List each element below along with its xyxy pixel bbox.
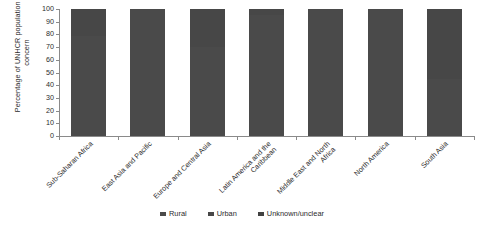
plot-area: 1009080706050403020100 — [59, 9, 474, 136]
y-tick-label: 40 — [28, 81, 59, 88]
legend-swatch-icon — [160, 212, 166, 216]
bar-segment[interactable] — [427, 79, 462, 136]
legend-swatch-icon — [258, 212, 264, 216]
y-tick-label: 20 — [28, 107, 59, 114]
y-tick-mark — [56, 34, 59, 35]
bar-slot — [237, 9, 296, 136]
legend-item[interactable]: Unknown/unclear — [258, 210, 324, 218]
bar-segment[interactable] — [71, 9, 106, 36]
x-tick-mark — [474, 136, 475, 140]
bar-segment[interactable] — [190, 9, 225, 47]
legend-item[interactable]: Rural — [160, 210, 187, 218]
stacked-bar[interactable] — [190, 9, 225, 136]
y-tick-mark — [56, 111, 59, 112]
stacked-bar[interactable] — [71, 9, 106, 136]
bar-segment[interactable] — [130, 9, 165, 136]
x-axis-label: Sub-Saharan Africa — [29, 140, 94, 205]
legend-label: Urban — [217, 210, 237, 218]
y-tick-label: 90 — [28, 18, 59, 25]
x-axis-label: Europe and Central Asia — [148, 140, 213, 205]
y-tick-label: 80 — [28, 30, 59, 37]
stacked-bar[interactable] — [249, 9, 284, 136]
stacked-bar[interactable] — [427, 9, 462, 136]
bar-segment[interactable] — [249, 15, 284, 136]
y-tick-mark — [56, 60, 59, 61]
chart-legend: RuralUrbanUnknown/unclear — [0, 210, 484, 218]
y-tick-mark — [56, 73, 59, 74]
y-tick-label: 10 — [28, 119, 59, 126]
stacked-bar[interactable] — [308, 9, 343, 136]
stacked-bar[interactable] — [368, 9, 403, 136]
bar-slot — [355, 9, 414, 136]
stacked-bar[interactable] — [130, 9, 165, 136]
y-tick-mark — [56, 47, 59, 48]
y-tick-label: 60 — [28, 56, 59, 63]
y-tick-mark — [56, 22, 59, 23]
bar-segment[interactable] — [308, 9, 343, 136]
bar-segment[interactable] — [368, 9, 403, 136]
y-tick-label: 70 — [28, 43, 59, 50]
bar-slot — [118, 9, 177, 136]
legend-label: Unknown/unclear — [267, 210, 324, 218]
y-tick-label: 30 — [28, 94, 59, 101]
bar-slot — [296, 9, 355, 136]
x-axis-label: East Asia and Pacific — [89, 140, 154, 205]
bars-container — [59, 9, 474, 136]
y-tick-mark — [56, 123, 59, 124]
bar-segment[interactable] — [71, 36, 106, 136]
y-tick-label: 50 — [28, 69, 59, 76]
x-axis-labels: Sub-Saharan AfricaEast Asia and PacificE… — [59, 140, 474, 198]
bar-slot — [415, 9, 474, 136]
bar-segment[interactable] — [427, 9, 462, 79]
x-axis-label: South Asia — [385, 140, 450, 205]
legend-swatch-icon — [208, 212, 214, 216]
bar-slot — [178, 9, 237, 136]
y-tick-mark — [56, 9, 59, 10]
legend-label: Rural — [169, 210, 187, 218]
y-tick-label: 100 — [28, 5, 59, 12]
y-tick-mark — [56, 85, 59, 86]
stacked-bar-chart: Percentage of UNHCR population of concer… — [0, 0, 484, 232]
legend-item[interactable]: Urban — [208, 210, 237, 218]
bar-slot — [59, 9, 118, 136]
bar-segment[interactable] — [190, 47, 225, 136]
y-tick-label: 0 — [28, 132, 59, 139]
y-tick-mark — [56, 98, 59, 99]
